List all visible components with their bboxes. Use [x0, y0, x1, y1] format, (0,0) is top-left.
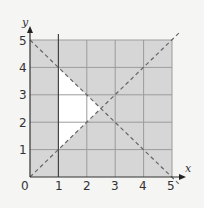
y-tick-1: 1: [19, 143, 27, 157]
x-tick-4: 4: [139, 179, 147, 193]
origin-label: 0: [21, 179, 29, 193]
y-tick-4: 4: [19, 61, 27, 75]
x-tick-3: 3: [111, 179, 119, 193]
x-tick-2: 2: [83, 179, 91, 193]
y-tick-2: 2: [19, 116, 27, 130]
x-tick-1: 1: [55, 179, 63, 193]
graph: x y 0 1 2 3 4 5 1 2 3 4 5: [0, 0, 204, 208]
x-axis-label: x: [185, 162, 192, 175]
y-tick-3: 3: [19, 88, 27, 102]
y-axis-label: y: [21, 16, 29, 29]
x-tick-5: 5: [167, 179, 175, 193]
y-tick-5: 5: [19, 34, 27, 48]
